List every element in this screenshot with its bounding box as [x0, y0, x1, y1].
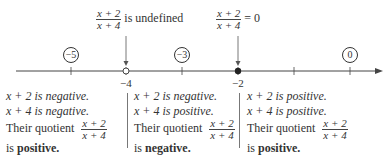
region-line: x + 4 is positive. — [247, 104, 348, 119]
fraction: x + 2 x + 4 — [81, 118, 106, 141]
sign-row: is positive. — [6, 141, 107, 156]
region-line: x + 2 is negative. — [6, 89, 107, 104]
test-point-0: 0 — [342, 47, 358, 63]
divider — [127, 93, 128, 148]
region-left: x + 2 is negative. x + 4 is negative. Th… — [6, 89, 107, 156]
sign-row: is positive. — [247, 141, 348, 156]
quotient-row: Their quotient x + 2 x + 4 — [247, 118, 348, 141]
tick-label-minus4: −4 — [120, 77, 132, 89]
number-line — [0, 0, 385, 100]
quotient-row: Their quotient x + 2 x + 4 — [134, 118, 235, 141]
sign-result: negative. — [145, 141, 191, 155]
region-middle: x + 2 is negative. x + 4 is positive. Th… — [134, 89, 235, 156]
sign-result: positive. — [258, 141, 300, 155]
sign-row: is negative. — [134, 141, 235, 156]
region-right: x + 2 is positive. x + 4 is positive. Th… — [247, 89, 348, 156]
test-point-minus3: −3 — [174, 47, 190, 63]
arrow-head-icon — [236, 61, 241, 66]
arrow-head-icon — [124, 61, 129, 66]
closed-point-icon — [235, 68, 241, 74]
fraction: x + 2 x + 4 — [209, 118, 234, 141]
region-line: x + 2 is negative. — [134, 89, 235, 104]
region-line: x + 2 is positive. — [247, 89, 348, 104]
quotient-row: Their quotient x + 2 x + 4 — [6, 118, 107, 141]
region-line: x + 4 is positive. — [134, 104, 235, 119]
region-line: x + 4 is negative. — [6, 104, 107, 119]
axis-arrow-icon — [375, 68, 383, 74]
sign-result: positive. — [17, 141, 59, 155]
tick-label-minus2: −2 — [232, 77, 244, 89]
divider — [239, 93, 240, 148]
test-point-minus5: −5 — [63, 47, 79, 63]
open-point-icon — [123, 68, 129, 74]
fraction: x + 2 x + 4 — [322, 118, 347, 141]
